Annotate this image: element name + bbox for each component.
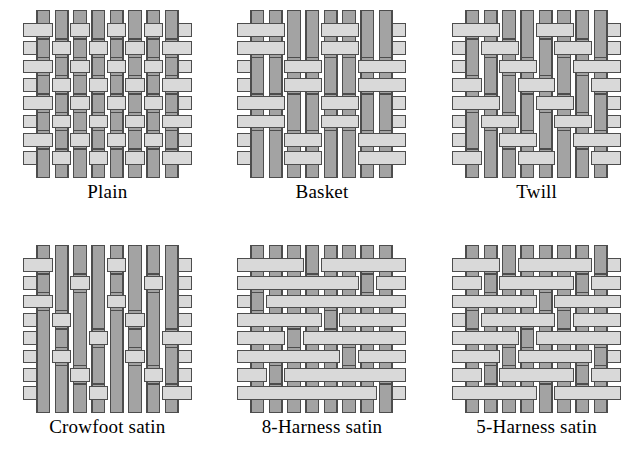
weave-diagram-plain <box>15 8 200 180</box>
weave-diagram-twill <box>444 8 629 180</box>
weave-panel-twill: Twill <box>429 0 644 237</box>
weave-label-crowfoot-satin: Crowfoot satin <box>49 417 165 436</box>
weave-label-twill: Twill <box>516 182 557 201</box>
weave-patterns-figure: PlainBasketTwillCrowfoot satin8-Harness … <box>0 0 644 473</box>
weave-diagram-8-harness-satin <box>229 243 414 415</box>
weave-panel-8-harness-satin: 8-Harness satin <box>215 237 430 473</box>
weave-label-basket: Basket <box>296 182 349 201</box>
weave-grid: PlainBasketTwillCrowfoot satin8-Harness … <box>0 0 644 473</box>
weave-diagram-crowfoot-satin <box>15 243 200 415</box>
weave-diagram-5-harness-satin <box>444 243 629 415</box>
weave-panel-plain: Plain <box>0 0 215 237</box>
weave-panel-basket: Basket <box>215 0 430 237</box>
weave-label-plain: Plain <box>87 182 127 201</box>
weave-label-5-harness-satin: 5-Harness satin <box>476 417 597 436</box>
weave-panel-5-harness-satin: 5-Harness satin <box>429 237 644 473</box>
weave-panel-crowfoot-satin: Crowfoot satin <box>0 237 215 473</box>
weave-diagram-basket <box>229 8 414 180</box>
weave-label-8-harness-satin: 8-Harness satin <box>262 417 383 436</box>
